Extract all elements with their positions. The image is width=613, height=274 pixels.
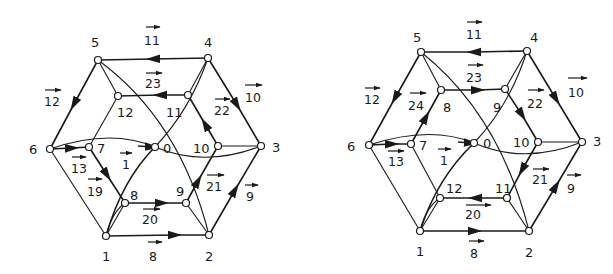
node-5 [95,57,102,64]
node-label-7: 7 [419,138,427,153]
edge-label-21: 21 [206,175,224,194]
node-label-3: 3 [593,134,601,149]
svg-text:24: 24 [408,98,424,113]
svg-text:9: 9 [246,189,254,204]
svg-text:1: 1 [440,153,448,168]
node-0 [152,144,159,151]
node-label-3: 3 [272,140,280,155]
node-11 [185,92,192,99]
node-label-2: 2 [205,249,213,264]
svg-text:23: 23 [466,70,482,85]
node-label-4: 4 [530,30,538,45]
node-label-4: 4 [204,35,212,50]
node-12 [115,93,122,100]
node-12 [437,195,444,202]
edge-label-22: 22 [214,99,230,118]
svg-text:12: 12 [44,94,60,109]
edge-10-11 [507,142,538,198]
node-9 [183,200,190,207]
edge-5-8 [421,52,441,90]
edge-label-23: 23 [145,73,162,91]
node-1 [417,228,424,235]
svg-text:10: 10 [568,85,584,100]
node-5 [418,49,425,56]
svg-text:11: 11 [144,33,160,48]
svg-text:8: 8 [470,246,478,261]
edge-label-23: 23 [466,65,483,85]
node-9 [502,86,509,93]
edge-label-9: 9 [245,185,258,204]
right-graph: 0 1 2 3 4 5 6 7 8 9 10 11 12 11 23 12 24 [347,22,601,261]
node-0 [471,140,478,147]
edge-2-11 [507,198,529,231]
node-label-12: 12 [446,181,463,196]
node-label-9: 9 [493,100,501,115]
node-1 [103,233,110,240]
node-6 [366,142,373,149]
svg-text:23: 23 [145,76,161,91]
edge-5-12 [98,60,118,96]
svg-text:21: 21 [206,179,222,194]
node-label-11: 11 [166,105,183,120]
svg-text:10: 10 [245,90,261,105]
svg-text:11: 11 [466,27,482,42]
curve-0-4 [155,58,208,147]
node-3 [258,143,265,150]
edge-2-9 [186,203,209,235]
edge-label-20: 20 [142,209,160,227]
edge-4-5 [98,58,208,60]
node-label-5: 5 [91,35,99,50]
node-label-6: 6 [29,142,37,157]
svg-text:8: 8 [149,249,157,264]
svg-text:13: 13 [388,154,404,169]
edge-label-1: 1 [438,149,451,168]
svg-text:21: 21 [532,172,548,187]
node-label-11: 11 [495,181,512,196]
edge-label-13: 13 [71,157,87,176]
svg-text:12: 12 [364,92,380,107]
svg-text:1: 1 [122,157,130,172]
node-label-7: 7 [97,141,105,156]
node-7 [86,144,93,151]
edge-label-12: 12 [44,90,61,109]
edge-label-10: 10 [245,85,262,105]
node-6 [47,146,54,153]
edge-4-11 [188,58,208,95]
node-3 [579,139,586,146]
edge-1-12 [420,198,440,231]
node-label-12: 12 [117,105,134,120]
edge-label-11: 11 [466,22,482,42]
svg-text:19: 19 [87,184,103,199]
edge-label-8: 8 [148,242,162,264]
node-7 [408,141,415,148]
edge-label-9: 9 [567,175,581,196]
edge-label-21: 21 [532,169,549,187]
node-10 [215,143,222,150]
edge-label-1: 1 [120,153,132,172]
node-label-6: 6 [347,139,355,154]
node-2 [206,232,213,239]
left-graph: 0 1 2 3 4 5 6 7 8 9 10 11 12 11 23 12 22 [29,27,280,264]
edge-6-7 [369,144,411,145]
svg-text:22: 22 [214,103,230,118]
edge-label-11: 11 [144,27,160,48]
node-8 [438,87,445,94]
svg-text:20: 20 [465,207,481,222]
node-2 [526,228,533,235]
node-label-0: 0 [483,136,491,151]
node-4 [524,48,531,55]
edge-label-13: 13 [388,151,404,169]
node-10 [535,139,542,146]
edge-label-24: 24 [408,93,426,113]
edge-label-8: 8 [469,241,484,261]
edge-4-5 [421,51,527,52]
node-label-10: 10 [193,141,210,156]
edge-7-0-arrow [138,146,152,147]
svg-text:20: 20 [142,212,158,227]
edge-1-2 [106,235,209,236]
node-label-8: 8 [443,100,451,115]
edge-7-0-arrow [458,142,471,143]
svg-text:13: 13 [71,161,87,176]
edge-8-9 [441,89,505,90]
node-label-9: 9 [176,184,184,199]
